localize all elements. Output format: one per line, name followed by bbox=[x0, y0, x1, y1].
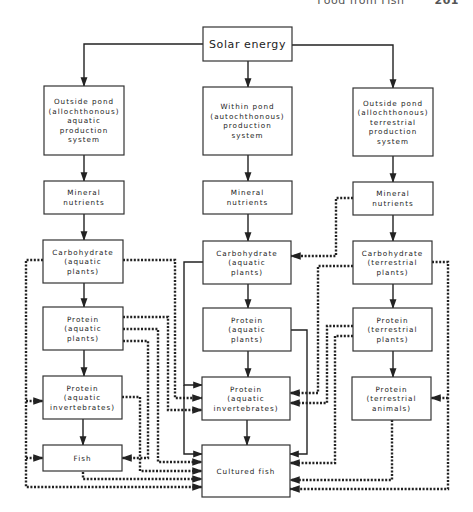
node-label: production bbox=[60, 126, 109, 135]
node-min_m: Mineralnutrients bbox=[203, 181, 292, 214]
node-label: plants) bbox=[377, 335, 409, 344]
node-prot_r: Protein(terrestrialplants) bbox=[353, 308, 432, 351]
node-fish_l: Fish bbox=[43, 445, 122, 471]
node-label: plants) bbox=[67, 334, 99, 343]
node-inv_m: Protein(aquaticinvertebrates) bbox=[202, 377, 290, 420]
node-prot_l: Protein(aquaticplants) bbox=[43, 307, 123, 350]
node-label: nutrients bbox=[63, 198, 104, 207]
edge-solar-to-out_ter bbox=[292, 45, 393, 88]
node-label: Mineral bbox=[67, 188, 101, 197]
node-carb_l: Carbohydrate(aquaticplants) bbox=[43, 240, 123, 283]
edge-prot_l-to-cult bbox=[123, 329, 202, 462]
node-label: production bbox=[223, 121, 272, 130]
edge-carb_m-to-inv_m bbox=[184, 262, 203, 385]
node-label: plants) bbox=[67, 267, 99, 276]
node-inv_l: Protein(aquaticinvertebrates) bbox=[43, 376, 122, 419]
edge-carb_r-to-ani_r-cult bbox=[290, 262, 448, 489]
node-label: nutrients bbox=[227, 198, 268, 207]
edge-ani_r-to-cult bbox=[290, 420, 392, 480]
node-label: Protein bbox=[66, 384, 98, 393]
node-label: invertebrates) bbox=[213, 404, 278, 413]
node-label: terrestrial bbox=[370, 118, 416, 127]
edge-prot_l-to-inv_m bbox=[123, 317, 202, 410]
node-solar: Solar energy bbox=[203, 27, 292, 61]
node-label: (terrestrial bbox=[367, 258, 417, 267]
edge-carb_m-to-cult bbox=[184, 385, 202, 454]
node-label: plants) bbox=[377, 268, 409, 277]
node-carb_r: Carbohydrate(terrestrialplants) bbox=[353, 241, 432, 284]
node-label: animals) bbox=[372, 404, 411, 413]
node-label: Cultured fish bbox=[217, 467, 276, 476]
node-label: nutrients bbox=[372, 199, 413, 208]
node-label: Fish bbox=[74, 454, 92, 463]
node-label: Carbohydrate bbox=[216, 249, 277, 258]
node-label: Mineral bbox=[231, 188, 265, 197]
diagram-nodes: Solar energyOutside pond(allochthonous)a… bbox=[43, 27, 433, 497]
node-cult: Cultured fish bbox=[202, 445, 290, 497]
node-label: Protein bbox=[67, 315, 99, 324]
node-prot_m: Protein(aquaticplants) bbox=[203, 308, 291, 351]
edge-inv_l-to-cult bbox=[122, 397, 202, 471]
node-label: (allochthonous) bbox=[49, 107, 120, 116]
node-label: (aquatic bbox=[64, 324, 102, 333]
node-label: (aquatic bbox=[228, 325, 266, 334]
node-label: Within pond bbox=[220, 102, 274, 111]
edge-solar-to-out_aq bbox=[84, 44, 203, 86]
node-label: production bbox=[369, 127, 418, 136]
edge-fish_l-to-cult bbox=[83, 472, 202, 479]
node-label: plants) bbox=[231, 268, 263, 277]
node-label: Solar energy bbox=[209, 38, 286, 51]
node-label: Protein bbox=[375, 385, 407, 394]
node-label: (aquatic bbox=[64, 257, 102, 266]
edge-prot_l-to-fish_l bbox=[122, 341, 148, 458]
node-label: system bbox=[377, 137, 409, 146]
node-label: Outside pond bbox=[363, 99, 423, 108]
node-out_aq: Outside pond(allochthonous)aquaticproduc… bbox=[44, 86, 124, 155]
node-label: (aquatic bbox=[64, 393, 102, 402]
node-out_ter: Outside pond(allochthonous)terrestrialpr… bbox=[353, 88, 433, 156]
node-label: (autochthonous) bbox=[210, 112, 284, 121]
fish-food-flow-diagram: Solar energyOutside pond(allochthonous)a… bbox=[0, 0, 473, 512]
node-label: Mineral bbox=[376, 189, 410, 198]
node-label: (terrestrial bbox=[366, 394, 416, 403]
node-carb_m: Carbohydrate(aquaticplants) bbox=[203, 241, 291, 284]
node-label: Carbohydrate bbox=[362, 249, 423, 258]
node-label: plants) bbox=[231, 335, 263, 344]
edge-min_r-to-carb_m bbox=[291, 198, 353, 256]
node-label: (allochthonous) bbox=[358, 108, 429, 117]
node-label: Outside pond bbox=[54, 97, 114, 106]
node-label: Carbohydrate bbox=[52, 248, 113, 257]
node-label: aquatic bbox=[67, 116, 101, 125]
node-min_r: Mineralnutrients bbox=[353, 182, 433, 215]
node-label: (aquatic bbox=[228, 258, 266, 267]
node-label: system bbox=[232, 131, 264, 140]
edge-prot_r-to-inv_m bbox=[290, 326, 353, 403]
node-label: Protein bbox=[230, 385, 262, 394]
node-ani_r: Protein(terrestrialanimals) bbox=[352, 377, 431, 420]
node-label: system bbox=[68, 135, 100, 144]
node-within: Within pond(autochthonous)productionsyst… bbox=[203, 87, 292, 155]
node-label: (terrestrial bbox=[367, 325, 417, 334]
node-label: Protein bbox=[231, 316, 263, 325]
node-label: invertebrates) bbox=[50, 403, 115, 412]
node-label: Protein bbox=[376, 316, 408, 325]
node-label: (aquatic bbox=[227, 394, 265, 403]
node-min_l: Mineralnutrients bbox=[44, 181, 124, 214]
edge-prot_r-to-cult bbox=[290, 336, 353, 463]
